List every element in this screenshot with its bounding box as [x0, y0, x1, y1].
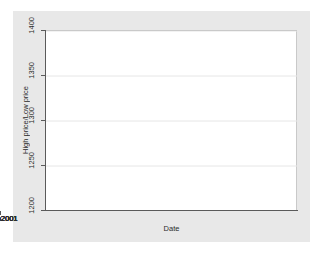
- y-axis-title: High price/Low price: [21, 30, 30, 210]
- y-tick-label-wrap: 1400: [0, 18, 40, 26]
- y-tick-mark: [41, 30, 45, 31]
- y-tick-label-wrap: 1250: [0, 153, 40, 161]
- y-axis-line: [45, 30, 46, 211]
- y-tick-mark: [41, 165, 45, 166]
- y-tick-mark: [41, 75, 45, 76]
- y-tick-label-wrap: 1200: [0, 198, 40, 206]
- x-axis-title: Date: [45, 224, 298, 233]
- gridlines: [45, 31, 297, 166]
- x-tick-label: 26feb2001: [0, 214, 18, 223]
- plot-region: [45, 30, 297, 210]
- chart-figure: 12001250130013501400 01jan200115jan20012…: [0, 0, 323, 256]
- y-tick-label-wrap: 1300: [0, 108, 40, 116]
- x-axis-line: [45, 210, 298, 211]
- y-tick-mark: [41, 210, 45, 211]
- y-tick-mark: [41, 120, 45, 121]
- range-plot-svg: [45, 31, 297, 211]
- y-tick-label-wrap: 1350: [0, 63, 40, 71]
